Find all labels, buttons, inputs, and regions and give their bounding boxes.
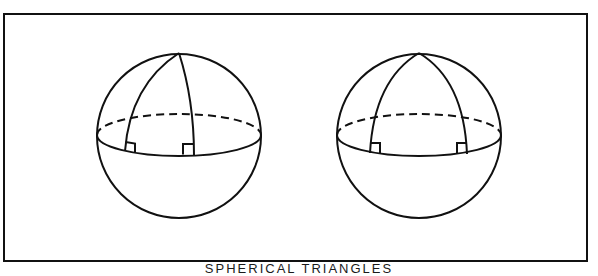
meridian-2 [419, 53, 467, 154]
meridian-2 [179, 53, 194, 155]
equator-front [97, 135, 261, 156]
equator-back-dashed [337, 114, 501, 135]
equator-front [337, 135, 501, 156]
sphere-outline [337, 54, 501, 218]
sphere-left [97, 53, 261, 218]
right-angle-mark-2 [183, 144, 194, 155]
meridian-1 [370, 53, 419, 153]
figure-caption: SPHERICAL TRIANGLES [0, 262, 598, 276]
sphere-right [337, 53, 501, 218]
equator-back-dashed [97, 114, 261, 135]
sphere-outline [97, 54, 261, 218]
